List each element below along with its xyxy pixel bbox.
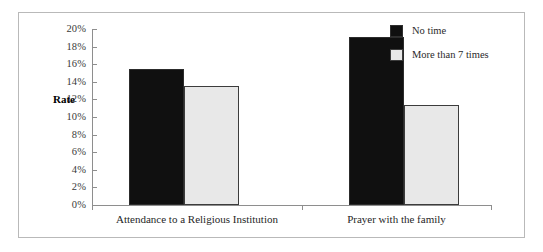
y-axis-tick-label: 0%	[41, 200, 86, 210]
y-axis-tick	[92, 29, 97, 30]
x-axis-tick	[302, 205, 303, 210]
y-axis-tick	[92, 47, 97, 48]
bar-more-than-7-times[interactable]	[184, 86, 239, 205]
y-axis-tick	[92, 82, 97, 83]
legend-swatch-icon	[390, 25, 403, 37]
bar-no-time[interactable]	[129, 69, 184, 205]
y-axis-tick-label: 4%	[41, 165, 86, 175]
y-axis-tick	[92, 170, 97, 171]
legend-item-more-than-7-times[interactable]: More than 7 times	[390, 46, 520, 70]
x-axis-tick	[92, 205, 93, 210]
category-label: Attendance to a Religious Institution	[92, 213, 302, 226]
legend-label: No time	[412, 23, 446, 39]
y-axis-tick	[92, 117, 97, 118]
y-axis-tick-label: 20%	[41, 24, 86, 34]
x-axis-line	[92, 205, 491, 206]
category-label: Prayer with the family	[302, 213, 491, 226]
y-axis-tick-label: 18%	[41, 42, 86, 52]
y-axis-title: Rate	[41, 94, 75, 104]
y-axis-tick-label: 16%	[41, 59, 86, 69]
y-axis-tick	[92, 152, 97, 153]
legend-swatch-icon	[390, 49, 403, 61]
chart-legend: No time More than 7 times	[390, 22, 520, 70]
y-axis-tick-label: 8%	[41, 130, 86, 140]
y-axis-tick	[92, 135, 97, 136]
y-axis-tick	[92, 187, 97, 188]
y-axis-tick	[92, 64, 97, 65]
y-axis-tick	[92, 99, 97, 100]
y-axis-tick-label: 6%	[41, 147, 86, 157]
y-axis-tick-label: 10%	[41, 112, 86, 122]
legend-label: More than 7 times	[412, 47, 489, 63]
legend-item-no-time[interactable]: No time	[390, 22, 520, 46]
y-axis-tick-label: 14%	[41, 77, 86, 87]
x-axis-tick	[491, 205, 492, 210]
bar-more-than-7-times[interactable]	[404, 105, 459, 205]
y-axis-tick-label: 2%	[41, 182, 86, 192]
chart-figure: 20%18%16%14%12%10%8%6%4%2%0% Rate Attend…	[18, 12, 525, 238]
